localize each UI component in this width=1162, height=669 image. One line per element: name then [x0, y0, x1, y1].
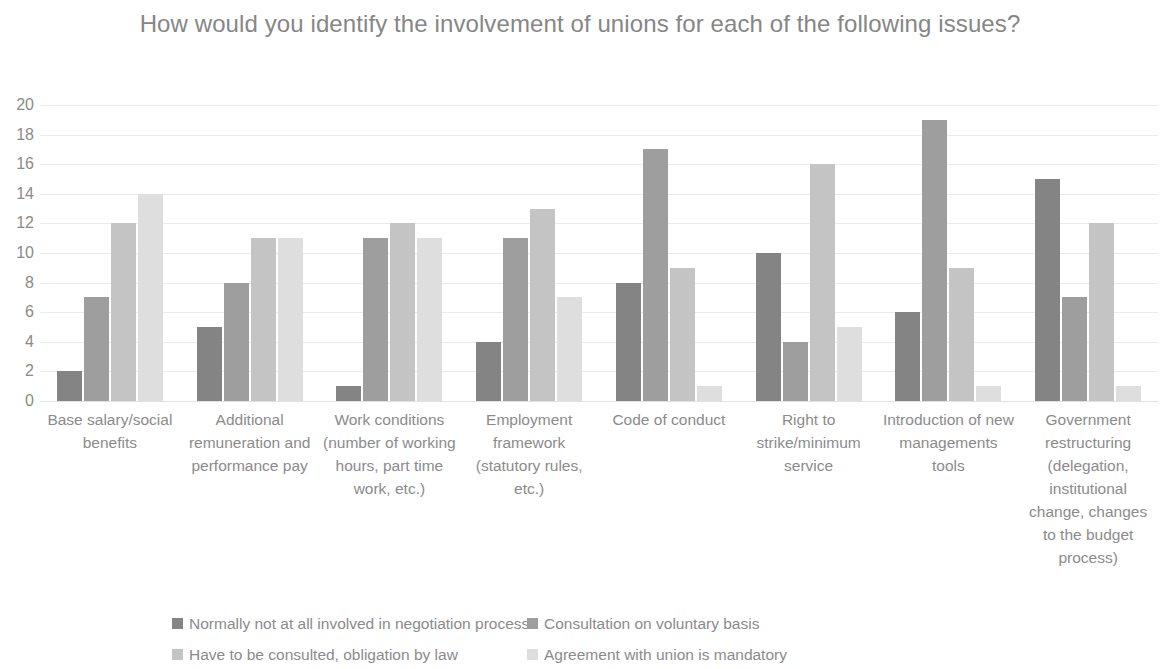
bar[interactable] [1089, 223, 1114, 401]
bar[interactable] [922, 120, 947, 401]
bar-slot [197, 105, 222, 401]
bar[interactable] [810, 164, 835, 401]
legend-item[interactable]: Normally not at all involved in negotiat… [172, 615, 527, 633]
axis-baseline [40, 401, 1158, 402]
bar[interactable] [417, 238, 442, 401]
bar[interactable] [84, 297, 109, 401]
bar-groups [40, 105, 1158, 401]
bar[interactable] [278, 238, 303, 401]
bar[interactable] [895, 312, 920, 401]
bar[interactable] [949, 268, 974, 401]
bar[interactable] [530, 209, 555, 401]
bar-chart: How would you identify the involvement o… [0, 0, 1162, 669]
legend-label: Normally not at all involved in negotiat… [189, 615, 529, 633]
bar-slot [1116, 105, 1141, 401]
legend-label: Have to be consulted, obligation by law [189, 646, 458, 664]
y-axis-tick-label: 14 [0, 186, 34, 202]
bar[interactable] [976, 386, 1001, 401]
bar-slot [138, 105, 163, 401]
x-axis-category-label: Work conditions (number of working hours… [320, 408, 460, 500]
bar[interactable] [616, 283, 641, 401]
bar-slot [530, 105, 555, 401]
y-axis-tick-label: 18 [0, 127, 34, 143]
x-axis-category-label: Government restructuring (delegation, in… [1018, 408, 1158, 569]
plot-area [40, 105, 1158, 401]
bar[interactable] [670, 268, 695, 401]
bar-group [1018, 105, 1158, 401]
bar-group [180, 105, 320, 401]
y-axis: 20181614121086420 [0, 105, 34, 401]
bar[interactable] [111, 223, 136, 401]
bar-slot [643, 105, 668, 401]
bar-slot [837, 105, 862, 401]
bar[interactable] [251, 238, 276, 401]
bar-slot [697, 105, 722, 401]
chart-title: How would you identify the involvement o… [80, 8, 1080, 40]
bar-group [320, 105, 460, 401]
bar[interactable] [336, 386, 361, 401]
bar[interactable] [697, 386, 722, 401]
bar-slot [1035, 105, 1060, 401]
bar[interactable] [643, 149, 668, 401]
bar[interactable] [1035, 179, 1060, 401]
bar-slot [557, 105, 582, 401]
bar[interactable] [1062, 297, 1087, 401]
bar-slot [390, 105, 415, 401]
y-axis-tick-label: 8 [0, 275, 34, 291]
bar-slot [84, 105, 109, 401]
bar-slot [363, 105, 388, 401]
bar-slot [57, 105, 82, 401]
bar-slot [895, 105, 920, 401]
bar-group [739, 105, 879, 401]
y-axis-tick-label: 4 [0, 334, 34, 350]
bar-slot [616, 105, 641, 401]
x-axis-category-label: Base salary/social benefits [40, 408, 180, 454]
bar[interactable] [476, 342, 501, 401]
legend-item[interactable]: Agreement with union is mandatory [527, 646, 892, 664]
bar-slot [670, 105, 695, 401]
bar[interactable] [57, 371, 82, 401]
bar-slot [224, 105, 249, 401]
bar[interactable] [557, 297, 582, 401]
bar[interactable] [197, 327, 222, 401]
bar-slot [756, 105, 781, 401]
bar[interactable] [837, 327, 862, 401]
legend-label: Consultation on voluntary basis [544, 615, 759, 633]
y-axis-tick-label: 20 [0, 97, 34, 113]
y-axis-tick-label: 2 [0, 363, 34, 379]
legend-item[interactable]: Consultation on voluntary basis [527, 615, 892, 633]
bar-slot [476, 105, 501, 401]
bar-slot [503, 105, 528, 401]
bar[interactable] [390, 223, 415, 401]
bar-slot [251, 105, 276, 401]
legend-label: Agreement with union is mandatory [544, 646, 787, 664]
x-axis-category-label: Additional remuneration and performance … [180, 408, 320, 477]
y-axis-tick-label: 6 [0, 304, 34, 320]
bar[interactable] [783, 342, 808, 401]
bar[interactable] [363, 238, 388, 401]
bar[interactable] [138, 194, 163, 401]
bar[interactable] [224, 283, 249, 401]
x-axis-category-label: Code of conduct [599, 408, 739, 431]
legend-item[interactable]: Have to be consulted, obligation by law [172, 646, 527, 664]
bar-slot [949, 105, 974, 401]
bar[interactable] [756, 253, 781, 401]
legend-swatch-icon [172, 618, 183, 629]
legend-swatch-icon [527, 618, 538, 629]
legend-swatch-icon [527, 649, 538, 660]
bar-group [40, 105, 180, 401]
bar-slot [417, 105, 442, 401]
chart-legend: Normally not at all involved in negotiat… [172, 608, 892, 669]
bar-slot [976, 105, 1001, 401]
bar-slot [111, 105, 136, 401]
bar-group [459, 105, 599, 401]
bar-slot [336, 105, 361, 401]
bar[interactable] [1116, 386, 1141, 401]
y-axis-tick-label: 16 [0, 156, 34, 172]
bar-slot [810, 105, 835, 401]
bar-slot [1062, 105, 1087, 401]
bar-group [599, 105, 739, 401]
bar[interactable] [503, 238, 528, 401]
x-axis-category-label: Right to strike/minimum service [739, 408, 879, 477]
y-axis-tick-label: 10 [0, 245, 34, 261]
